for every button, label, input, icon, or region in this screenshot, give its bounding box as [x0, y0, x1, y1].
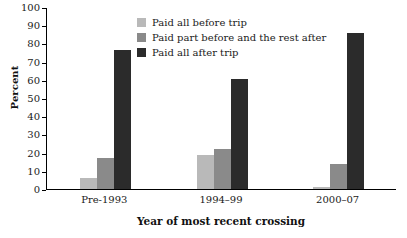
y-tick-label: 100: [21, 3, 40, 13]
y-tick-label: 70: [27, 58, 40, 68]
legend-label: Paid all before trip: [152, 17, 247, 28]
bar: [114, 50, 131, 189]
bar: [80, 178, 97, 189]
x-axis-category-label: 2000–07: [316, 194, 359, 205]
y-tick-label: 80: [27, 39, 40, 49]
x-axis-category-label: Pre-1993: [81, 194, 127, 205]
legend-entry: Paid part before and the rest after: [137, 30, 326, 45]
legend-entry: Paid all after trip: [137, 45, 326, 60]
y-tick-label: 0: [34, 185, 40, 195]
legend-label: Paid part before and the rest after: [152, 32, 326, 43]
bar: [214, 149, 231, 189]
legend: Paid all before tripPaid part before and…: [137, 15, 326, 60]
y-tick-label: 60: [27, 76, 40, 86]
y-tick-mark: [42, 8, 46, 9]
y-tick-mark: [42, 172, 46, 173]
y-tick-mark: [42, 154, 46, 155]
y-tick-mark: [42, 117, 46, 118]
bar: [313, 187, 330, 189]
legend-swatch-icon: [137, 18, 146, 27]
legend-swatch-icon: [137, 48, 146, 57]
y-tick-mark: [42, 81, 46, 82]
bar-chart: Percent 0102030405060708090100 Pre-19931…: [0, 0, 407, 238]
y-tick-label: 20: [27, 149, 40, 159]
x-axis-title: Year of most recent crossing: [46, 215, 396, 227]
y-tick-label: 50: [27, 94, 40, 104]
x-axis-line: [46, 189, 396, 190]
legend-swatch-icon: [137, 33, 146, 42]
bar-group: [80, 8, 131, 189]
bar: [330, 164, 347, 189]
y-tick-label: 90: [27, 21, 40, 31]
bar: [231, 79, 248, 189]
y-tick-label: 40: [27, 112, 40, 122]
bar: [347, 33, 364, 189]
y-tick-mark: [42, 99, 46, 100]
y-tick-mark: [42, 190, 46, 191]
y-tick-mark: [42, 44, 46, 45]
y-axis-title: Percent: [9, 48, 20, 128]
y-tick-label: 10: [27, 167, 40, 177]
y-tick-mark: [42, 135, 46, 136]
y-tick-mark: [42, 63, 46, 64]
legend-label: Paid all after trip: [152, 47, 239, 58]
y-tick-label: 30: [27, 130, 40, 140]
x-axis-category-label: 1994–99: [199, 194, 242, 205]
bar: [197, 155, 214, 189]
legend-entry: Paid all before trip: [137, 15, 326, 30]
bar: [97, 158, 114, 189]
y-tick-mark: [42, 26, 46, 27]
